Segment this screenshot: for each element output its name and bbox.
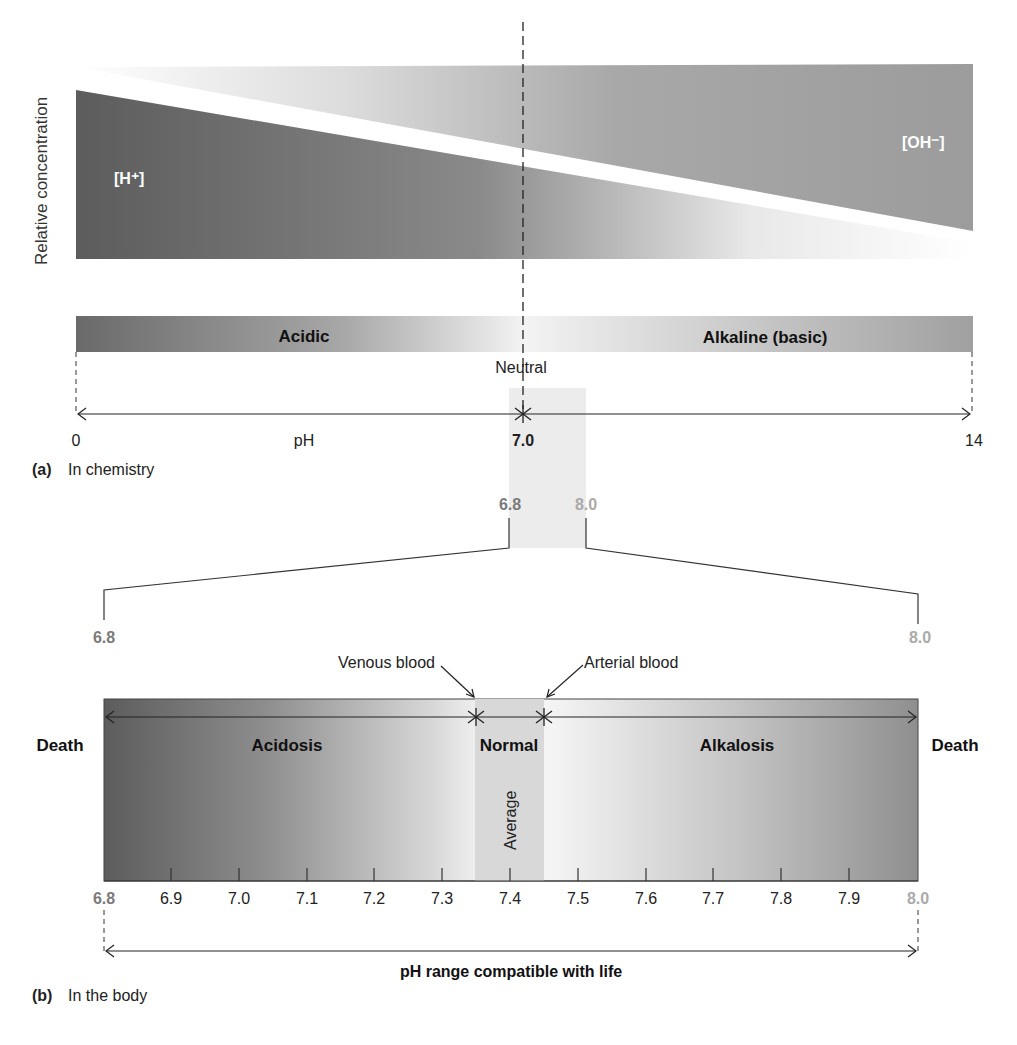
- venous-blood-label: Venous blood: [338, 654, 435, 671]
- range-high-label: 8.0: [909, 629, 931, 646]
- caption-a-text: In chemistry: [68, 461, 154, 478]
- zoom-connector-left: [104, 518, 509, 620]
- zoom-low-label: 6.8: [499, 496, 521, 513]
- normal-label: Normal: [480, 736, 539, 755]
- tick-label: 8.0: [907, 890, 929, 907]
- ph-scale-bar: [76, 316, 973, 352]
- tick-label: 6.8: [93, 890, 115, 907]
- alkaline-label: Alkaline (basic): [703, 328, 828, 347]
- death-right-label: Death: [931, 736, 978, 755]
- oh-ion-label: [OH⁻]: [902, 134, 945, 151]
- tick-label: 7.6: [635, 890, 657, 907]
- zoom-high-label: 8.0: [575, 496, 597, 513]
- life-range-label: pH range compatible with life: [400, 963, 622, 980]
- tick-label: 7.2: [363, 890, 385, 907]
- zoom-connector-right: [586, 518, 918, 624]
- acidosis-label: Acidosis: [252, 736, 323, 755]
- scale-neutral-value: 7.0: [512, 432, 534, 449]
- tick-label: 7.9: [838, 890, 860, 907]
- h-ion-label: [H⁺]: [114, 170, 144, 187]
- death-left-label: Death: [36, 736, 83, 755]
- tick-label: 7.5: [567, 890, 589, 907]
- range-low-label: 6.8: [93, 629, 115, 646]
- y-axis-label: Relative concentration: [32, 97, 51, 265]
- ph-diagram: Relative concentration [H⁺] [OH⁻] Acidic…: [0, 0, 1017, 1045]
- scale-max-label: 14: [965, 432, 983, 449]
- caption-a-letter: (a): [32, 461, 52, 478]
- tick-label: 7.4: [499, 890, 521, 907]
- acidic-label: Acidic: [278, 327, 329, 346]
- ph-axis-name: pH: [294, 432, 314, 449]
- caption-b-text: In the body: [68, 987, 147, 1004]
- arterial-blood-label: Arterial blood: [584, 654, 678, 671]
- alkalosis-label: Alkalosis: [700, 736, 775, 755]
- scale-min-label: 0: [72, 432, 81, 449]
- average-label: Average: [502, 791, 519, 850]
- tick-label: 7.1: [296, 890, 318, 907]
- tick-label: 7.0: [228, 890, 250, 907]
- arterial-callout-arrow: [547, 665, 583, 697]
- caption-b-letter: (b): [32, 987, 52, 1004]
- tick-label: 7.7: [702, 890, 724, 907]
- normal-range-band: [475, 699, 544, 881]
- neutral-label: Neutral: [495, 359, 547, 376]
- tick-label: 7.3: [431, 890, 453, 907]
- tick-label: 7.8: [770, 890, 792, 907]
- tick-label: 6.9: [160, 890, 182, 907]
- venous-callout-arrow: [441, 666, 474, 697]
